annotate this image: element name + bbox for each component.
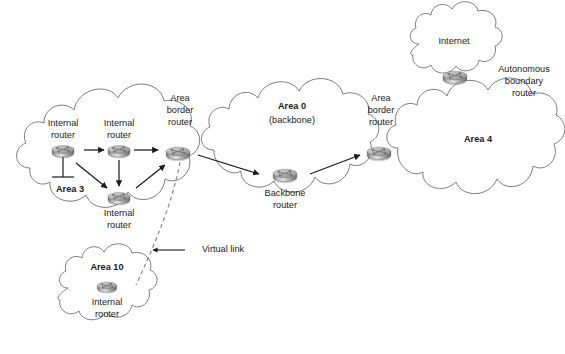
internal-router-3-label-line1: Internal <box>104 208 135 218</box>
diagram-canvas: Area 3 Area 10 Area 0 (backbone) Area 4 … <box>0 0 565 354</box>
cloud-label-internet: Internet <box>438 36 470 46</box>
cloud-area-4: Area 4 <box>387 78 565 194</box>
cloud-label-area-0: Area 0 <box>278 101 306 111</box>
abr-left-label-line2: border <box>167 105 194 115</box>
router-icon <box>166 147 190 161</box>
router-icon <box>108 193 130 206</box>
backbone-router-label-line2: router <box>273 200 297 210</box>
internal-router-2[interactable]: Internal router <box>104 118 135 158</box>
asbr-label-line2: boundary <box>505 76 544 86</box>
internal-router-3-label-line2: router <box>107 220 131 230</box>
abr-left-label-line3: router <box>168 117 192 127</box>
internal-router-1-label-line1: Internal <box>48 118 79 128</box>
router-icon <box>273 169 297 183</box>
internal-router-2-label-line2: router <box>107 130 131 140</box>
asbr-label-line3: router <box>512 88 536 98</box>
router-icon <box>367 147 391 161</box>
abr-right-label-line1: Area <box>371 93 391 103</box>
router-icon <box>108 146 130 159</box>
area-border-router-right[interactable]: Area border router <box>367 93 394 161</box>
area10-router-label-line2: router <box>95 309 119 319</box>
annotation-virtual-link: Virtual link <box>153 244 245 254</box>
cloud-label-area-4: Area 4 <box>464 134 493 144</box>
router-icon <box>443 71 467 85</box>
cloud-label-area-10: Area 10 <box>90 262 123 272</box>
internal-router-2-label-line1: Internal <box>104 118 135 128</box>
cloud-sublabel-area-0: (backbone) <box>269 115 315 125</box>
virtual-link-label: Virtual link <box>202 244 245 254</box>
abr-right-label-line2: border <box>368 105 395 115</box>
abr-right-label-line3: router <box>369 117 393 127</box>
cloud-internet: Internet <box>410 2 502 73</box>
network-topology-diagram: Area 3 Area 10 Area 0 (backbone) Area 4 … <box>0 0 565 354</box>
cloud-shape-area-10 <box>58 244 157 320</box>
internal-router-1[interactable]: Internal router <box>48 118 79 158</box>
asbr-label-line1: Autonomous <box>498 64 550 74</box>
internal-router-3[interactable]: Internal router <box>104 193 135 231</box>
router-icon <box>52 146 74 159</box>
internal-router-1-label-line2: router <box>51 130 75 140</box>
cloud-label-area-3: Area 3 <box>56 184 84 194</box>
area10-router-label-line1: Internal <box>92 297 123 307</box>
backbone-router-label-line1: Backbone <box>265 188 306 198</box>
abr-left-label-line1: Area <box>170 93 190 103</box>
cloud-area-10: Area 10 <box>58 244 157 320</box>
router-icon <box>97 282 116 293</box>
